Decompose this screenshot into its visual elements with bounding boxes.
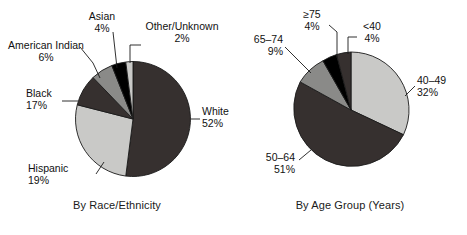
pie-label-age-75-plus-name: ≥75 bbox=[295, 9, 329, 21]
pie-label-age-40-49: 40–49 32% bbox=[417, 75, 446, 98]
figure-two-pie-charts: White 52% Hispanic 19% Black 17% America… bbox=[0, 0, 467, 235]
chart-caption-age-group: By Age Group (Years) bbox=[233, 199, 467, 211]
pie-label-age-50-64-name: 50–64 bbox=[233, 152, 295, 164]
chart-caption-race-ethnicity: By Race/Ethnicity bbox=[0, 199, 234, 211]
pie-label-age-under-40-pct: 4% bbox=[355, 33, 389, 45]
pie-label-age-65-74: 65–74 9% bbox=[233, 34, 283, 57]
pie-chart-race-ethnicity: White 52% Hispanic 19% Black 17% America… bbox=[0, 0, 234, 235]
pie-label-age-75-plus-pct: 4% bbox=[295, 21, 329, 33]
pie-label-age-50-64-pct: 51% bbox=[233, 164, 295, 176]
pie-label-american-indian-name: American Indian bbox=[2, 40, 90, 52]
pie-label-asian-name: Asian bbox=[78, 11, 126, 23]
leader-line-age-40-49 bbox=[405, 86, 415, 96]
pie-label-asian-pct: 4% bbox=[78, 23, 126, 35]
leader-line-asian bbox=[113, 32, 117, 68]
pie-label-american-indian: American Indian 6% bbox=[2, 40, 90, 63]
pie-label-age-75-plus: ≥75 4% bbox=[295, 9, 329, 32]
pie-label-hispanic-pct: 19% bbox=[28, 175, 68, 187]
pie-chart-age-group: 40–49 32% 50–64 51% 65–74 9% ≥75 4% <40 … bbox=[233, 0, 467, 235]
pie-label-white-name: White bbox=[202, 106, 229, 118]
leader-line-other-unknown bbox=[130, 45, 141, 63]
pie-label-age-40-49-name: 40–49 bbox=[417, 75, 446, 87]
pie-label-hispanic-name: Hispanic bbox=[28, 163, 68, 175]
pie-label-black-name: Black bbox=[26, 88, 52, 100]
pie-label-age-50-64: 50–64 51% bbox=[233, 152, 295, 175]
pie-label-asian: Asian 4% bbox=[78, 11, 126, 34]
pie-slice-white bbox=[126, 62, 191, 177]
pie-label-black: Black 17% bbox=[26, 88, 52, 111]
pie-label-other-unknown-pct: 2% bbox=[138, 33, 226, 45]
pie-label-age-65-74-pct: 9% bbox=[233, 46, 283, 58]
pie-label-age-under-40: <40 4% bbox=[355, 21, 389, 44]
pie-label-white: White 52% bbox=[202, 106, 229, 129]
leader-line-age-75-plus bbox=[329, 25, 337, 58]
pie-label-age-40-49-pct: 32% bbox=[417, 87, 446, 99]
pie-label-american-indian-pct: 6% bbox=[2, 52, 90, 64]
pie-label-other-unknown: Other/Unknown 2% bbox=[138, 21, 226, 44]
leader-line-age-65-74 bbox=[285, 47, 311, 73]
pie-label-black-pct: 17% bbox=[26, 100, 52, 112]
pie-label-age-65-74-name: 65–74 bbox=[233, 34, 283, 46]
pie-label-hispanic: Hispanic 19% bbox=[28, 163, 68, 186]
leader-line-age-50-64 bbox=[299, 150, 311, 160]
pie-label-age-under-40-name: <40 bbox=[355, 21, 389, 33]
pie-label-other-unknown-name: Other/Unknown bbox=[138, 21, 226, 33]
pie-label-white-pct: 52% bbox=[202, 118, 229, 130]
